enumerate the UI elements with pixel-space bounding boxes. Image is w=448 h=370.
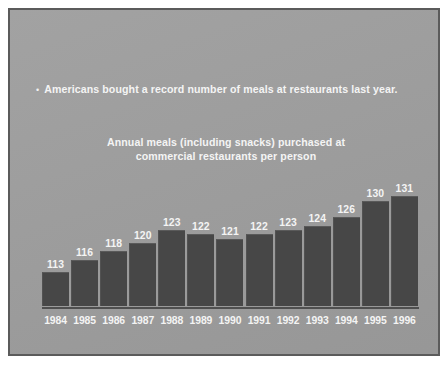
bar-value-label: 120 [134,230,152,241]
bullet-statement-text: Americans bought a record number of meal… [44,83,397,96]
bar-item: 116 [71,170,98,306]
bar-rectangle [304,226,331,306]
bar-value-label: 122 [192,221,210,232]
chart-title-line-2: commercial restaurants per person [50,149,402,163]
x-axis-tick-label: 1985 [71,315,98,326]
bar-rectangle [216,239,243,306]
x-axis-tick-label: 1996 [391,315,418,326]
x-axis-tick-label: 1991 [246,315,273,326]
chart-title: Annual meals (including snacks) purchase… [50,135,402,163]
x-axis-tick-label: 1988 [158,315,185,326]
x-axis-tick-label: 1995 [362,315,389,326]
bar-item: 122 [187,170,214,306]
bar-item: 118 [100,170,127,306]
slide-frame: • Americans bought a record number of me… [8,8,440,356]
bar-value-label: 116 [76,247,93,258]
bar-item: 121 [216,170,243,306]
bar-rectangle [42,272,69,306]
bar-value-label: 126 [337,204,355,215]
x-axis-tick-label: 1994 [333,315,360,326]
bar-series: 113116118120123122121122123124126130131 [42,170,418,306]
bar-item: 124 [304,170,331,306]
bar-rectangle [362,201,389,306]
bar-value-label: 123 [279,217,297,228]
bar-item: 123 [158,170,185,306]
bar-item: 130 [362,170,389,306]
bar-rectangle [100,251,127,306]
bar-rectangle [158,230,185,306]
bar-value-label: 124 [308,213,326,224]
bullet-marker-icon: • [36,86,39,95]
bar-rectangle [391,196,418,306]
bar-rectangle [333,217,360,306]
x-axis-tick-labels: 1984198519861987198819891990199119921993… [42,315,418,326]
bar-item: 123 [275,170,302,306]
bar-rectangle [71,260,98,306]
bar-value-label: 113 [47,259,64,270]
bar-rectangle [129,243,156,306]
bar-item: 131 [391,170,418,306]
bar-item: 120 [129,170,156,306]
x-axis-tick-label: 1990 [216,315,243,326]
x-axis-tick-label: 1993 [304,315,331,326]
x-axis-tick-label: 1986 [100,315,127,326]
bar-chart-plot-area: 113116118120123122121122123124126130131 [42,170,418,310]
bar-item: 122 [246,170,273,306]
x-axis-tick-label: 1989 [187,315,214,326]
bar-value-label: 118 [105,238,122,249]
bar-value-label: 131 [396,183,414,194]
x-axis-tick-label: 1987 [129,315,156,326]
x-axis-tick-label: 1992 [275,315,302,326]
x-axis-baseline [42,307,419,309]
bullet-statement: • Americans bought a record number of me… [36,83,426,96]
bar-item: 126 [333,170,360,306]
bar-value-label: 123 [163,217,181,228]
bar-item: 113 [42,170,69,306]
bar-value-label: 122 [250,221,268,232]
bar-value-label: 121 [221,226,239,237]
bar-rectangle [275,230,302,306]
bar-rectangle [246,234,273,306]
chart-title-line-1: Annual meals (including snacks) purchase… [50,135,402,149]
bar-value-label: 130 [367,188,385,199]
x-axis-tick-label: 1984 [42,315,69,326]
bar-rectangle [187,234,214,306]
